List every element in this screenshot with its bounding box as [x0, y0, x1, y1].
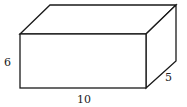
height-label: 6	[4, 56, 11, 69]
depth-label: 5	[165, 71, 172, 84]
front-face	[20, 34, 146, 88]
rectangular-prism-diagram: 6 10 5	[0, 0, 187, 107]
length-label: 10	[77, 93, 91, 106]
